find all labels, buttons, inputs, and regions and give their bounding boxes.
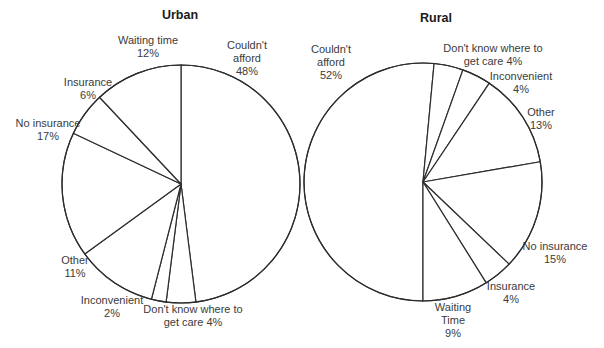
urban-slice-label-1: Don't know where toget care 4%: [143, 303, 242, 329]
slice-label-line: 52%: [311, 69, 351, 82]
rural-slice-label-6: WaitingTime9%: [435, 301, 471, 340]
slice-label-line: 2%: [81, 307, 143, 320]
slice-label-line: 17%: [16, 130, 81, 143]
slice-label-line: Waiting time: [118, 34, 178, 47]
slice-label-line: Don't know where to: [143, 303, 242, 316]
rural-slice-label-4: No insurance15%: [523, 240, 588, 266]
urban-slice-label-0: Couldn'tafford48%: [227, 39, 267, 78]
slice-label-line: No insurance: [16, 117, 81, 130]
rural-slice-label-1: Don't know where toget care 4%: [443, 42, 542, 68]
slice-label-line: 4%: [487, 293, 535, 306]
slice-label-line: get care 4%: [443, 55, 542, 68]
slice-label-line: No insurance: [523, 240, 588, 253]
slice-label-line: afford: [311, 56, 351, 69]
slice-label-line: afford: [227, 52, 267, 65]
rural-slice-label-5: Insurance4%: [487, 280, 535, 306]
slice-label-line: Time: [435, 314, 471, 327]
slice-label-line: Inconvenient: [490, 70, 552, 83]
slice-label-line: 9%: [435, 327, 471, 340]
slice-label-line: Other: [61, 254, 89, 267]
slice-label-line: 4%: [490, 83, 552, 96]
dual-pie-chart-figure: Urban Rural Couldn'tafford48%Don't know …: [0, 0, 604, 348]
slice-label-line: Couldn't: [311, 43, 351, 56]
slice-label-line: Other: [527, 106, 555, 119]
slice-label-line: Couldn't: [227, 39, 267, 52]
slice-label-line: get care 4%: [143, 316, 242, 329]
slice-label-line: Inconvenient: [81, 294, 143, 307]
slice-label-line: 13%: [527, 119, 555, 132]
urban-slice-label-4: No insurance17%: [16, 117, 81, 143]
urban-slice-label-6: Waiting time12%: [118, 34, 178, 60]
slice-label-line: 11%: [61, 267, 89, 280]
slice-label-line: Insurance: [487, 280, 535, 293]
slice-label-line: Don't know where to: [443, 42, 542, 55]
rural-slice-label-0: Couldn'tafford52%: [311, 43, 351, 82]
rural-slice-label-2: Inconvenient4%: [490, 70, 552, 96]
slice-label-line: 6%: [64, 89, 112, 102]
urban-slice-label-2: Inconvenient2%: [81, 294, 143, 320]
slice-label-line: Waiting: [435, 301, 471, 314]
slice-label-line: 15%: [523, 253, 588, 266]
rural-slice-label-3: Other13%: [527, 106, 555, 132]
urban-slice-label-3: Other11%: [61, 254, 89, 280]
slice-label-line: 48%: [227, 65, 267, 78]
slice-label-line: Insurance: [64, 76, 112, 89]
slice-label-line: 12%: [118, 47, 178, 60]
slice-labels-layer: Couldn'tafford48%Don't know where toget …: [0, 0, 604, 348]
urban-slice-label-5: Insurance6%: [64, 76, 112, 102]
